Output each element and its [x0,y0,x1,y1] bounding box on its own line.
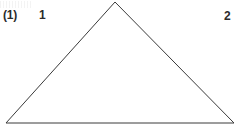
part-label-2: 2 [224,10,230,22]
triangle-drawing [0,0,241,131]
part-label-1: 1 [39,9,45,21]
figure-container: (1) 1 2 [0,0,241,131]
figure-number-label: (1) [3,9,17,21]
